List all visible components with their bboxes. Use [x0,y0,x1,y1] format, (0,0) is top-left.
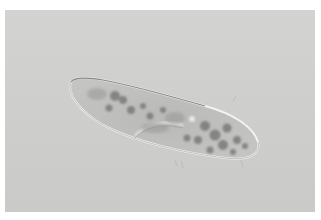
paramecium-cell [70,78,258,168]
microscope-photo [5,10,315,212]
paramecium-illustration [5,10,315,212]
